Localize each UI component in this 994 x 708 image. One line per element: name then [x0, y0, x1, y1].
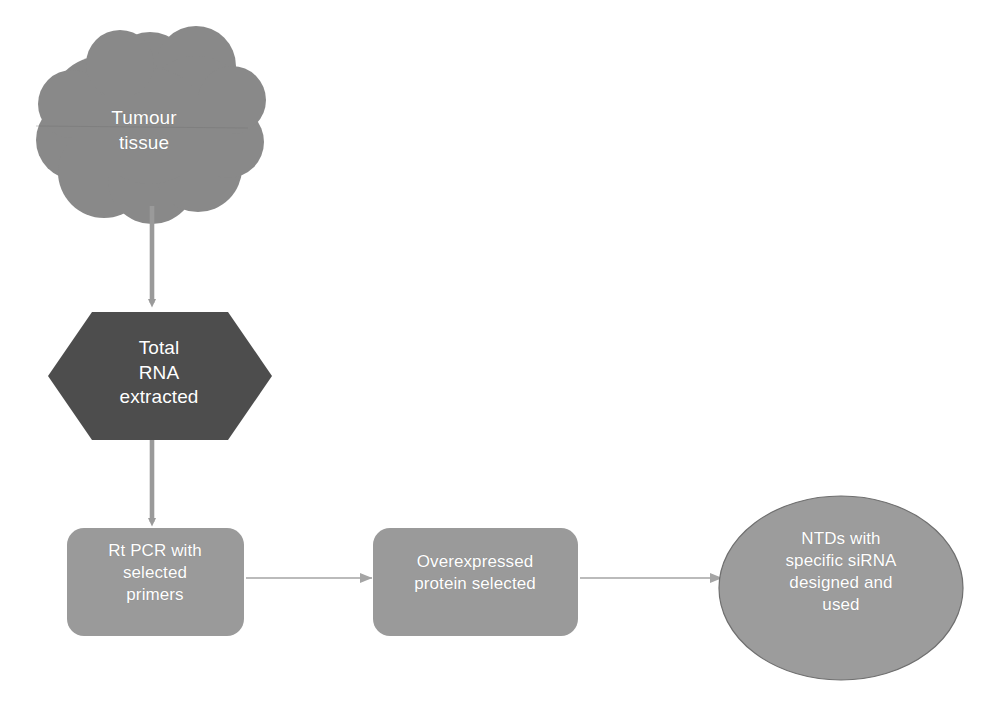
- node-tumour-tissue[interactable]: [36, 26, 266, 224]
- node-overexpressed-protein[interactable]: [373, 528, 578, 636]
- flowchart-graphic: [0, 0, 994, 708]
- diagram-canvas: Tumour tissue Total RNA extracted Rt PCR…: [0, 0, 994, 708]
- node-ntds-sirna[interactable]: [719, 496, 963, 680]
- node-rt-pcr-primers[interactable]: [67, 528, 244, 636]
- node-total-rna-extracted[interactable]: [48, 312, 272, 440]
